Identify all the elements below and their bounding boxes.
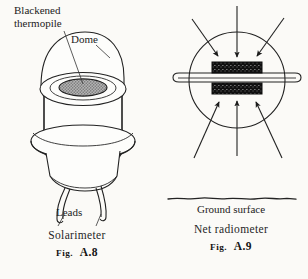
label-thermopile-line2: thermopile [14,17,62,30]
caption-solarimeter: Solarimeter Fig. A.8 [0,228,154,260]
caption-device-name: Net radiometer [154,222,308,236]
label-leads: Leads [56,206,82,219]
label-dome: Dome [71,33,98,46]
caption-figure-id: A.8 [80,246,98,258]
caption-device-name: Solarimeter [0,228,154,242]
caption-net-radiometer: Net radiometer Fig. A.9 [154,222,308,254]
figure-panel-solarimeter: Blackened thermopile Dome Leads Solarime… [0,0,154,279]
ground-surface-line [168,198,296,199]
lower-blackened-plate [212,83,262,94]
horizontal-sensor-plate [173,73,301,82]
caption-figure-id: A.9 [234,240,252,252]
label-ground-surface: Ground surface [154,203,308,216]
caption-figure-prefix: Fig. [56,248,73,258]
blackened-thermopile-disc [59,79,107,96]
tapered-base [46,151,120,191]
caption-figure-number: Fig. A.8 [0,245,154,260]
label-thermopile-line1: Blackened [14,4,62,17]
upper-blackened-plate [212,62,262,73]
figure-page: Blackened thermopile Dome Leads Solarime… [0,0,308,279]
caption-figure-prefix: Fig. [210,242,227,252]
figure-panel-net-radiometer: Ground surface Net radiometer Fig. A.9 [154,0,308,279]
label-blackened-thermopile: Blackened thermopile [14,4,62,29]
caption-figure-number: Fig. A.9 [154,239,308,254]
incoming-radiation-arrows-lower [194,101,282,158]
